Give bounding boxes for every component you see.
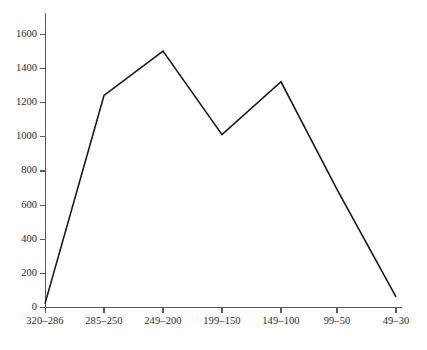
y-tick-label-1000: 1000 (16, 130, 37, 141)
y-tick-label-800: 800 (21, 164, 37, 175)
line-chart-figure: 0 200 400 600 800 1000 1200 1400 1600 32… (0, 0, 427, 350)
y-tick-label-200: 200 (21, 267, 37, 278)
chart-canvas: 0 200 400 600 800 1000 1200 1400 1600 32… (0, 0, 427, 350)
x-tick-label-6: 49–30 (383, 315, 410, 326)
y-tick-label-0: 0 (32, 301, 37, 312)
chart-background (0, 0, 427, 350)
x-tick-label-0: 320–286 (26, 315, 63, 326)
y-tick-label-1400: 1400 (16, 62, 37, 73)
x-tick-label-5: 99–50 (324, 315, 351, 326)
x-tick-label-3: 199–150 (203, 315, 240, 326)
x-tick-label-4: 149–100 (262, 315, 299, 326)
y-tick-label-1600: 1600 (16, 28, 37, 39)
x-tick-label-2: 249–200 (144, 315, 181, 326)
x-tick-label-1: 285–250 (85, 315, 122, 326)
y-tick-label-400: 400 (21, 233, 37, 244)
y-tick-label-1200: 1200 (16, 96, 37, 107)
y-tick-label-600: 600 (21, 199, 37, 210)
